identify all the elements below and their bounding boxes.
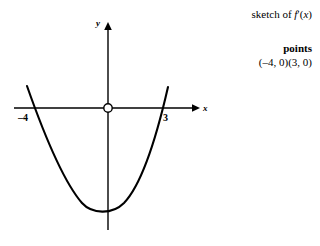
- y-axis-arrowhead: [104, 22, 112, 30]
- points-block: points (–4, 0)(3, 0): [172, 42, 312, 69]
- annotation-panel: sketch of f′(x) points (–4, 0)(3, 0): [172, 8, 312, 69]
- tick-label-right-root: 3: [163, 113, 168, 123]
- origin-marker-icon: [104, 104, 112, 112]
- figure-root: y x –4 3 sketch of f′(x) points (–4, 0)(…: [0, 0, 320, 246]
- y-axis: [104, 22, 112, 230]
- sketch-title-prefix: sketch of: [252, 8, 295, 20]
- y-axis-label: y: [96, 19, 100, 28]
- parabola-curve: [27, 86, 168, 212]
- points-heading: points: [172, 42, 312, 55]
- sketch-title-close-paren: ): [308, 8, 312, 20]
- x-axis-label: x: [203, 104, 208, 113]
- points-values: (–4, 0)(3, 0): [172, 56, 312, 69]
- sketch-title: sketch of f′(x): [172, 8, 312, 21]
- x-axis-arrowhead: [192, 104, 200, 112]
- tick-label-left-root: –4: [18, 113, 28, 123]
